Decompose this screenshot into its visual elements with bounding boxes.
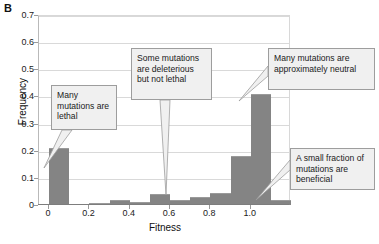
annotation-many-mutations-are-lethal: Many mutations are lethal [51,85,117,130]
x-tick-mark [209,205,210,209]
x-tick-label: 0.6 [163,208,176,218]
x-tick-mark [88,205,89,209]
y-tick-label: 0.1 [0,173,34,183]
x-axis-label: Fitness [0,222,330,233]
annotation-small-fraction-beneficial: A small fraction of mutations are benefi… [290,148,375,190]
x-tick-label: 0.2 [82,208,95,218]
figure-panel-b: B 00.10.20.30.40.50.60.7 00.20.40.60.81.… [0,0,379,244]
bar [231,156,251,205]
y-axis-label: Frequency [17,42,28,162]
x-tick-label: 0.4 [122,208,135,218]
annotation-many-mutations-are-neutral: Many mutations are approximately neutral [268,48,375,90]
y-tick-label: 0.7 [0,10,34,20]
x-tick-mark [250,205,251,209]
bar [49,148,69,205]
x-tick-label: 0.8 [203,208,216,218]
x-tick-label: 0 [46,208,51,218]
x-axis-line [38,204,289,205]
annotation-some-mutations-are-deleterious: Some mutations are deleterious but not l… [131,48,212,100]
x-tick-mark [169,205,170,209]
bar [251,94,271,205]
x-tick-mark [48,205,49,209]
x-tick-label: 1.0 [243,208,256,218]
x-tick-mark [129,205,130,209]
